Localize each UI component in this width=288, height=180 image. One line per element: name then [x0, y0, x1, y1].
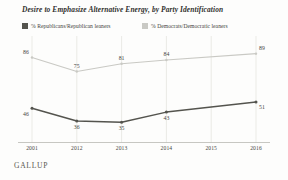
data-point [120, 121, 123, 124]
series-group [31, 52, 258, 123]
data-point [31, 107, 34, 110]
legend-item-democrat: % Democrats/Democratic leaners [142, 21, 228, 31]
x-axis-tick-2015: 2015 [205, 145, 217, 151]
gridlines-group [32, 36, 256, 143]
line-chart-svg: 46363543518675818489 [18, 36, 270, 143]
x-axis-tick-2016: 2016 [250, 145, 262, 151]
data-point [255, 100, 258, 103]
legend-swatch-democrat-icon [142, 23, 148, 29]
series-line-democrat [32, 54, 256, 72]
x-axis-tick-labels: 200120122013201420152016 [18, 145, 270, 155]
data-point-label: 43 [163, 115, 169, 121]
data-point-label: 75 [74, 63, 80, 69]
gallup-brand-label: GALLUP [14, 161, 48, 170]
data-point-label: 46 [23, 111, 29, 117]
data-point-label: 86 [23, 49, 29, 55]
plot-area: 46363543518675818489 [18, 36, 270, 143]
chart-legend: % Republicans/Republican leaners % Democ… [22, 21, 274, 31]
data-point [165, 59, 167, 61]
gallup-chart-screenshot: Desire to Emphasize Alternative Energy, … [0, 0, 288, 180]
legend-label-republican: % Republicans/Republican leaners [31, 23, 111, 30]
x-axis-tick-2014: 2014 [161, 145, 173, 151]
page-title: Desire to Emphasize Alternative Energy, … [22, 5, 272, 14]
data-point-label: 51 [259, 104, 265, 110]
x-axis-tick-2012: 2012 [71, 145, 83, 151]
data-point-label: 81 [119, 55, 125, 61]
data-point [165, 111, 168, 114]
x-axis-tick-2001: 2001 [26, 145, 38, 151]
data-point [31, 56, 33, 58]
data-point [76, 70, 78, 72]
data-point [120, 63, 122, 65]
data-point [75, 120, 78, 123]
legend-item-republican: % Republicans/Republican leaners [22, 21, 111, 31]
legend-label-democrat: % Democrats/Democratic leaners [151, 23, 228, 30]
x-axis-tick-2013: 2013 [116, 145, 128, 151]
series-line-republican [32, 102, 256, 122]
data-point-label: 35 [119, 125, 125, 131]
data-point [255, 52, 257, 54]
legend-swatch-republican-icon [22, 23, 28, 29]
data-point-label: 84 [163, 51, 169, 57]
data-point-label: 89 [259, 45, 265, 51]
data-point-label: 36 [74, 124, 80, 130]
